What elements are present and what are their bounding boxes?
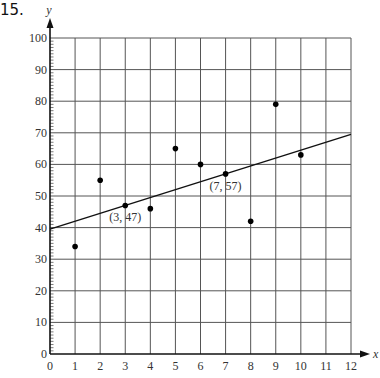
data-point [97,177,103,183]
x-tick-label: 1 [72,359,78,373]
y-tick-label: 40 [35,221,47,235]
data-point [223,171,229,177]
y-tick-label: 100 [29,31,47,45]
x-axis-arrow-icon [360,351,370,358]
data-point [198,162,204,168]
data-point [148,206,154,212]
y-tick-label: 10 [35,315,47,329]
y-axis-arrow-icon [47,18,54,28]
grid-lines [50,38,351,354]
y-tick-label: 60 [35,157,47,171]
data-point [173,146,179,152]
x-tick-label: 4 [147,359,153,373]
y-tick-label: 30 [35,252,47,266]
x-tick-label: 0 [47,359,53,373]
y-tick-label: 90 [35,63,47,77]
x-tick-label: 7 [223,359,229,373]
data-point [273,102,279,108]
data-point [72,244,78,250]
y-axis-title: y [45,3,52,17]
x-tick-label: 8 [248,359,254,373]
y-tick-label: 50 [35,189,47,203]
data-point [248,218,254,224]
x-tick-label: 3 [122,359,128,373]
x-tick-label: 10 [295,359,307,373]
x-tick-label: 6 [198,359,204,373]
x-tick-label: 12 [345,359,357,373]
tick-labels: 01234567891011120102030405060708090100 [29,31,357,373]
scatter-plot: yx 0123456789101112010203040506070809010… [0,0,380,378]
x-tick-label: 9 [273,359,279,373]
x-tick-label: 2 [97,359,103,373]
x-axis-title: x [372,347,379,361]
y-tick-label: 20 [35,284,47,298]
point-label: (7, 57) [210,179,242,193]
y-tick-label: 80 [35,94,47,108]
y-tick-label: 70 [35,126,47,140]
data-point [122,203,128,209]
x-tick-label: 5 [172,359,178,373]
y-tick-label: 0 [41,347,47,361]
point-label: (3, 47) [109,210,141,224]
x-tick-label: 11 [320,359,332,373]
data-point [298,152,304,158]
